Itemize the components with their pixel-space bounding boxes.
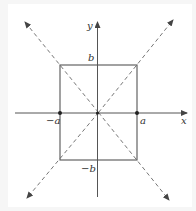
- asymptote-positive-slope: [99, 20, 174, 113]
- asymptote-negative-slope-lower: [99, 113, 170, 201]
- origin-point: [96, 111, 99, 114]
- vertex-right-point: [135, 111, 139, 115]
- neg-b-label: −b: [81, 163, 96, 174]
- y-axis-label: y: [86, 20, 93, 31]
- hyperbola-diagram: y x b −b −a a: [0, 0, 196, 211]
- asymptote-negative-slope: [25, 22, 99, 113]
- asymptote-positive-slope-lower: [27, 113, 99, 199]
- a-label: a: [140, 115, 146, 126]
- b-label: b: [88, 52, 94, 63]
- neg-a-label: −a: [46, 115, 60, 126]
- x-axis-label: x: [181, 115, 187, 126]
- asymptotes: [25, 20, 173, 200]
